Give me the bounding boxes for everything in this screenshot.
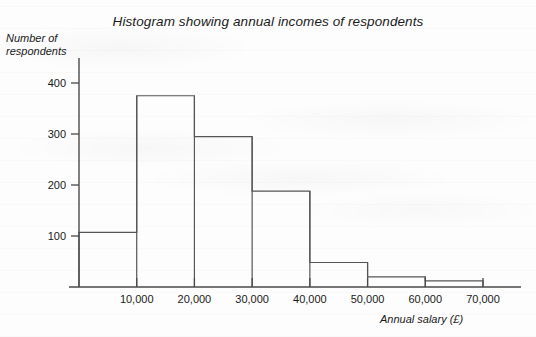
y-tick-label: 200: [48, 179, 66, 191]
x-tick-label: 10,000: [120, 293, 154, 305]
x-tick-label: 20,000: [178, 293, 212, 305]
y-tick-label: 400: [48, 77, 66, 89]
y-axis-ticks: 100200300400: [48, 77, 79, 242]
x-tick-label: 70,000: [466, 293, 500, 305]
histogram-bars: [79, 96, 483, 287]
histogram-outline: [79, 96, 483, 287]
x-tick-label: 50,000: [351, 293, 385, 305]
y-tick-label: 100: [48, 230, 66, 242]
y-tick-label: 300: [48, 128, 66, 140]
x-tick-label: 40,000: [293, 293, 327, 305]
x-tick-label: 60,000: [408, 293, 442, 305]
histogram-figure: Histogram showing annual incomes of resp…: [0, 0, 536, 337]
x-tick-label: 30,000: [235, 293, 269, 305]
histogram-plot-area: 100200300400 10,00020,00030,00040,00050,…: [0, 0, 536, 337]
x-axis-ticks: 10,00020,00030,00040,00050,00060,00070,0…: [120, 278, 500, 305]
